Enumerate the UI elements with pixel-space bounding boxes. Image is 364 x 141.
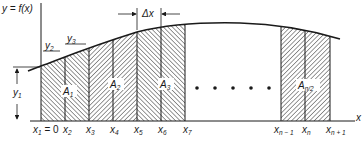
- y1-label: y1: [12, 87, 22, 99]
- x-tick-labels: x1 = 0 x2 x3 x4 x5 x6 x7 xn − 1 xn xn + …: [32, 124, 346, 136]
- x-tick-1: x1 = 0: [32, 124, 59, 136]
- strip-6: [161, 0, 185, 121]
- x-tick-n-1: xn − 1: [273, 124, 294, 136]
- strip-2: [65, 0, 89, 121]
- strip-n-1: [281, 0, 305, 121]
- x-tick-5: x5: [133, 124, 143, 136]
- delta-x-label: Δx: [141, 8, 155, 19]
- x-tick-n-plus-1: xn + 1: [325, 124, 346, 136]
- strip-n: [305, 0, 330, 121]
- strip-1: [41, 0, 65, 121]
- y3-label: y3: [66, 33, 76, 45]
- strip-4: [113, 0, 137, 121]
- x-tick-2: x2: [62, 124, 72, 136]
- x-tick-n: xn: [301, 124, 311, 136]
- x-tick-3: x3: [85, 124, 95, 136]
- function-label: y = f(x): [1, 3, 33, 14]
- x-tick-4: x4: [109, 124, 119, 136]
- x-axis-label: x: [355, 112, 362, 123]
- y2-label: y2: [44, 40, 54, 52]
- strip-3: [89, 0, 113, 121]
- ellipsis-dots: [195, 86, 271, 90]
- x-tick-7: x7: [182, 124, 192, 136]
- x-tick-6: x6: [157, 124, 167, 136]
- simpsons-rule-diagram: y = f(x) x Δx y1 y2 y3 A1 A2 A3 An/2 x1 …: [0, 0, 364, 141]
